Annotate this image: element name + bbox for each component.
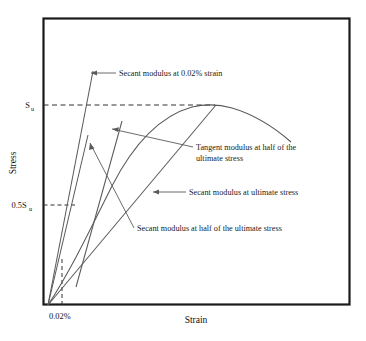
y-tick-su: S u <box>25 101 34 112</box>
y-tick-half-su-sub: u <box>29 205 32 212</box>
annotation-secant-002-label: Secant modulus at 0.02% strain <box>119 69 222 78</box>
y-tick-su-sub: u <box>31 105 34 112</box>
y-tick-su-main: S <box>25 101 30 110</box>
annotation-secant-ultimate-label: Secant modulus at ultimate stress <box>189 188 298 197</box>
stress-strain-figure: Secant modulus at 0.02% strain Tangent m… <box>0 0 366 341</box>
annotation-tangent-half-label-line1: Tangent modulus at half of the <box>196 143 297 152</box>
x-axis-label: Strain <box>185 315 208 325</box>
annotation-secant-half-label: Secant modulus at half of the ultimate s… <box>137 224 282 233</box>
y-tick-half-su-main: S <box>22 201 27 210</box>
y-tick-half-su-prefix: 0.5 <box>12 201 22 210</box>
y-tick-half-su: 0.5 S u <box>12 201 33 212</box>
annotation-tangent-half-label-line2: ultimate stress <box>196 154 243 163</box>
x-tick-002-label: 0.02% <box>49 312 71 321</box>
y-axis-label: Stress <box>8 151 18 174</box>
